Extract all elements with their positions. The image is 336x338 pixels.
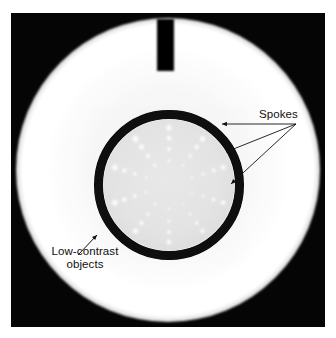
orientation-marker [157, 19, 174, 71]
low-contrast-label-line2: objects [36, 258, 134, 271]
phantom-figure: Spokes Low-contrast objects [0, 0, 336, 338]
scan-image-plate [11, 13, 325, 327]
annotation-label-spokes: Spokes [259, 108, 298, 121]
low-contrast-label-line1: Low-contrast [51, 245, 118, 257]
scan-image [11, 13, 325, 327]
annotation-label-low-contrast: Low-contrast objects [36, 245, 134, 271]
image-noise-overlay [104, 120, 235, 251]
